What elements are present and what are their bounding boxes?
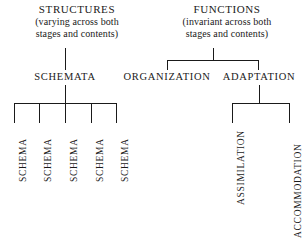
header-functions: FUNCTIONS (invariant across both stages …: [152, 3, 302, 40]
leaf-schema-4: SCHEMA: [95, 138, 105, 182]
connector-schema-drop-2: [39, 103, 40, 123]
leaf-accommodation: ACCOMMODATION: [293, 143, 303, 238]
connector-functions-crossbar: [167, 60, 259, 61]
piaget-tree-diagram: STRUCTURES (varying across both stages a…: [0, 0, 305, 241]
leaf-schema-1: SCHEMA: [18, 138, 28, 182]
connector-accommodation-drop: [289, 103, 290, 123]
connector-schema-drop-1: [14, 103, 15, 123]
connector-adaptation-crossbar: [232, 103, 290, 104]
node-adaptation: ADAPTATION: [223, 71, 296, 82]
connector-schema-drop-3: [65, 103, 66, 123]
header-structures-title: STRUCTURES: [4, 3, 150, 16]
node-schemata: SCHEMATA: [34, 71, 95, 82]
connector-adaptation-stem: [259, 85, 260, 103]
connector-assimilation-drop: [232, 103, 233, 123]
leaf-assimilation: ASSIMILATION: [236, 130, 246, 205]
connector-functions-stem: [213, 48, 214, 60]
header-structures-subtitle-line2: stages and contents): [4, 28, 150, 40]
leaf-schema-3: SCHEMA: [69, 138, 79, 182]
connector-organization-drop: [167, 60, 168, 70]
connector-schemata-stem: [65, 85, 66, 103]
connector-structures-stem: [65, 48, 66, 70]
header-functions-subtitle-line2: stages and contents): [152, 28, 302, 40]
header-structures-subtitle-line1: (varying across both: [4, 16, 150, 28]
header-structures: STRUCTURES (varying across both stages a…: [4, 3, 150, 40]
header-functions-subtitle-line1: (invariant across both: [152, 16, 302, 28]
connector-schema-drop-5: [116, 103, 117, 123]
node-organization: ORGANIZATION: [123, 71, 210, 82]
leaf-schema-5: SCHEMA: [120, 138, 130, 182]
leaf-schema-2: SCHEMA: [43, 138, 53, 182]
header-functions-title: FUNCTIONS: [152, 3, 302, 16]
connector-adaptation-drop: [258, 60, 259, 70]
connector-schema-drop-4: [91, 103, 92, 123]
